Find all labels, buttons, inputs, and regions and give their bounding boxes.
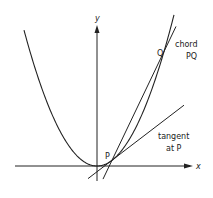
y-axis-arrow-icon bbox=[95, 25, 100, 33]
parabola-curve bbox=[24, 15, 174, 166]
diagram-canvas: y x P Q chord PQ tangent at P bbox=[0, 0, 213, 198]
chord-line bbox=[103, 26, 176, 179]
tangent-label-line1: tangent bbox=[158, 132, 189, 141]
chord-label-line1: chord bbox=[175, 40, 198, 49]
chord-label-line2: PQ bbox=[186, 52, 197, 61]
tangent-line bbox=[88, 105, 184, 178]
point-p-label: P bbox=[105, 152, 110, 161]
y-axis-label: y bbox=[94, 14, 100, 23]
x-axis-arrow-icon bbox=[184, 164, 193, 169]
x-axis-label: x bbox=[195, 162, 201, 171]
tangent-label-line2: at P bbox=[166, 144, 182, 153]
point-q-label: Q bbox=[157, 49, 163, 58]
diagram-svg: y x P Q chord PQ tangent at P bbox=[0, 0, 213, 198]
